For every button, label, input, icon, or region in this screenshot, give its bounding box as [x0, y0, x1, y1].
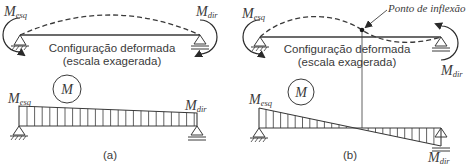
moment-label-left-diagram: Mesq	[248, 92, 273, 108]
deformed-label-line1: Configuração deformada	[49, 42, 176, 54]
moment-label-left-diagram: Mesq	[7, 91, 32, 107]
pinned-support-icon	[10, 126, 28, 140]
deformed-label-line1: Configuração deformada	[284, 43, 411, 55]
moment-label-right: Mdir	[195, 4, 218, 20]
deformed-label-line2: (escala exagerada)	[298, 56, 397, 68]
panel-a: Mesq Mdir Configuração deformada (escala…	[3, 4, 218, 161]
panel-b: Ponto de inflexão Mesq Mdir Configuração…	[241, 2, 466, 166]
deformed-label-line2: (escala exagerada)	[63, 55, 162, 67]
moment-label-left: Mesq	[241, 6, 266, 22]
deformed-curve-a	[20, 15, 200, 35]
beam-moment-diagram: Mesq Mdir Configuração deformada (escala…	[0, 0, 467, 167]
moment-label-right-diagram: Mdir	[184, 98, 207, 114]
inflection-point	[360, 28, 365, 33]
moment-label-right-diagram: Mdir	[427, 150, 450, 166]
inflection-label: Ponto de inflexão	[387, 2, 466, 14]
pinned-support-icon	[11, 35, 29, 50]
roller-support-icon	[191, 35, 209, 49]
deformed-curve-b	[260, 17, 441, 43]
pinned-support-icon	[251, 37, 269, 51]
moment-label-left: Mesq	[3, 4, 28, 20]
moment-arrow-right-icon	[196, 20, 217, 56]
inflection-pointer-icon	[366, 10, 387, 27]
moment-arrow-right-icon	[436, 24, 458, 60]
moment-diagram-b	[259, 108, 441, 146]
caption-a: (a)	[103, 149, 117, 161]
caption-b: (b)	[343, 149, 357, 161]
pinned-support-icon	[250, 128, 268, 142]
roller-support-icon	[188, 126, 206, 140]
moment-label-right: Mdir	[440, 63, 463, 79]
moment-diagram-a	[19, 106, 197, 126]
moment-symbol: M	[294, 85, 308, 100]
moment-symbol: M	[60, 82, 74, 97]
